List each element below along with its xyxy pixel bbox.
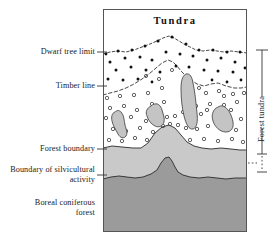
label-timber-line: Timber line bbox=[0, 81, 95, 91]
figure-title: Tundra bbox=[103, 15, 247, 26]
label-boundary-silvicultural-activity: Boundary of silvicultural activity bbox=[0, 165, 95, 184]
label-forest-tundra: Forest tundra bbox=[257, 96, 266, 142]
label-dwarf-tree-limit: Dwarf tree limit bbox=[0, 47, 95, 57]
label-forest-boundary: Forest boundary bbox=[0, 144, 95, 154]
forest-tundra-zonation-figure: Tundra Dwarf tree limit Timber line Fore… bbox=[0, 0, 274, 244]
terrain-bands bbox=[103, 9, 247, 232]
label-boreal-coniferous-forest: Boreal coniferous forest bbox=[0, 198, 95, 217]
